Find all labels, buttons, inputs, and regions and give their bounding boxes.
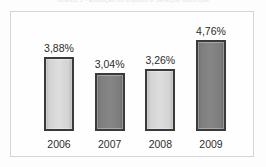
x-axis-label-2008: 2008: [137, 138, 183, 150]
figure-caption-strip: Gráfico 1 - Evolução do Imposto e Serviç…: [0, 0, 266, 7]
bar-value-label-2009: 4,76%: [188, 26, 234, 37]
bar-2007: [95, 73, 125, 131]
x-axis-label-2007: 2007: [87, 138, 133, 150]
bar-2008: [145, 69, 175, 131]
x-axis-label-2006: 2006: [36, 138, 82, 150]
bar-value-label-2008: 3,26%: [137, 55, 183, 66]
x-axis-label-2009: 2009: [188, 138, 234, 150]
chart-frame: 3,88%20063,04%20073,26%20084,76%2009: [10, 11, 254, 157]
figure-caption: Gráfico 1 - Evolução do Imposto e Serviç…: [57, 0, 209, 3]
bar-value-label-2006: 3,88%: [36, 43, 82, 54]
bar-group-2009: 4,76%2009: [188, 12, 234, 158]
bar-value-label-2007: 3,04%: [87, 59, 133, 70]
bar-2009: [196, 40, 226, 131]
chart-page: Gráfico 1 - Evolução do Imposto e Serviç…: [0, 0, 266, 167]
plot-area: 3,88%20063,04%20073,26%20084,76%2009: [11, 12, 255, 158]
bar-group-2006: 3,88%2006: [36, 12, 82, 158]
bar-group-2007: 3,04%2007: [87, 12, 133, 158]
bar-group-2008: 3,26%2008: [137, 12, 183, 158]
bar-2006: [44, 57, 74, 131]
